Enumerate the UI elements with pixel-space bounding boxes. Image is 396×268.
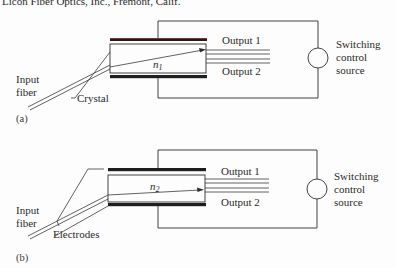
panel-b: Output 1 Output 2 n2 Input fiber Electro… — [16, 150, 379, 264]
header-text-fragment: Licon Fiber Optics, Inc., Fremont, Calif… — [2, 0, 181, 7]
source-label-b-line3: source — [334, 196, 363, 208]
refractive-index-b: n2 — [150, 180, 160, 194]
bottom-electrode-a — [110, 75, 207, 78]
input-label-a-line2: fiber — [16, 86, 37, 98]
switching-source-icon-b — [307, 179, 327, 199]
source-label-a-line1: Switching — [336, 38, 381, 50]
output1-label-a: Output 1 — [222, 34, 261, 46]
electrodes-label: Electrodes — [53, 228, 99, 240]
source-label-b-line2: control — [334, 183, 365, 195]
arrowhead-icon-b — [197, 188, 204, 193]
source-label-a-line2: control — [336, 51, 367, 63]
refractive-index-a: n1 — [153, 58, 163, 72]
arrowhead-icon-a — [199, 48, 206, 53]
bottom-electrode-b — [108, 203, 206, 206]
output1-label-b: Output 1 — [221, 165, 260, 177]
input-label-b-line2: fiber — [16, 217, 37, 229]
source-label-a-line3: source — [336, 64, 365, 76]
source-label-b-line1: Switching — [334, 170, 379, 182]
output2-label-a: Output 2 — [222, 65, 261, 77]
output2-label-b: Output 2 — [221, 196, 260, 208]
input-label-b-line1: Input — [16, 204, 39, 216]
crystal-label: Crystal — [77, 92, 109, 104]
top-electrode-b — [108, 168, 206, 171]
input-label-a-line1: Input — [16, 73, 39, 85]
switching-source-icon-a — [308, 48, 328, 68]
caption-a: (a) — [16, 113, 28, 125]
panel-a: Output 1 Output 2 n1 Input fiber Crystal… — [16, 21, 381, 125]
fiber-optic-switch-figure: Licon Fiber Optics, Inc., Fremont, Calif… — [0, 0, 396, 268]
caption-b: (b) — [16, 252, 29, 264]
